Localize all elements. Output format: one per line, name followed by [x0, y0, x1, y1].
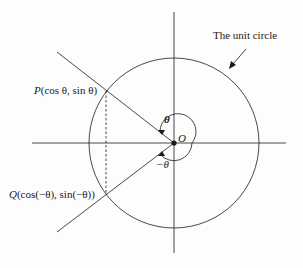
- point-q-coords: (cos(−θ), sin(−θ)): [17, 188, 95, 201]
- arrow-theta-icon: [158, 130, 165, 135]
- point-p-label: P(cos θ, sin θ): [33, 84, 97, 97]
- unit-circle-label: The unit circle: [213, 29, 277, 41]
- arrow-neg-theta-icon: [158, 151, 165, 156]
- label-pointer-line: [233, 49, 246, 64]
- origin-dot: [171, 140, 176, 145]
- angle-neg-theta-label: −θ: [156, 158, 169, 170]
- ray-theta: [57, 52, 174, 143]
- origin-label: O: [178, 132, 186, 144]
- point-q-name: Q: [9, 188, 17, 200]
- unit-circle-diagram: The unit circle O θ −θ P(cos θ, sin θ) Q…: [0, 0, 303, 268]
- angle-theta-label: θ: [164, 113, 170, 125]
- point-q-label: Q(cos(−θ), sin(−θ)): [9, 188, 95, 201]
- point-p-coords: (cos θ, sin θ): [41, 84, 98, 97]
